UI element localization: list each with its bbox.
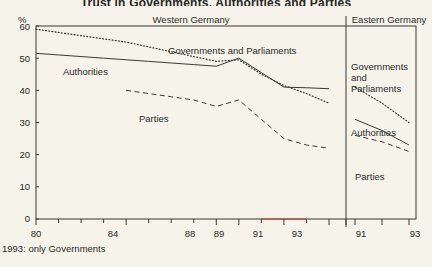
series-line-authorities-west xyxy=(36,53,329,88)
series-line-parties-west xyxy=(126,90,329,148)
axis-ticks xyxy=(36,26,409,225)
plot-canvas xyxy=(0,0,432,267)
series-line-parties-east xyxy=(355,135,409,151)
series-line-governments-and-parliaments-west xyxy=(36,29,329,103)
series-line-authorities-east xyxy=(355,119,409,145)
data-series xyxy=(36,29,409,151)
chart-figure: Trust in Governments, Authorities and Pa… xyxy=(0,0,432,267)
series-line-governments-and-parliaments-east xyxy=(355,87,409,122)
plot-frame xyxy=(36,26,416,219)
